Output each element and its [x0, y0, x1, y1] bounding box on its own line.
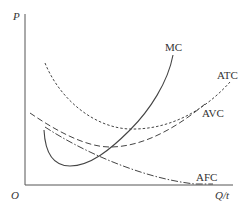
afc-label: AFC — [196, 171, 217, 183]
mc-curve — [44, 55, 173, 166]
afc-curve — [45, 127, 213, 184]
origin-label: O — [11, 189, 19, 201]
atc-label: ATC — [217, 69, 238, 81]
avc-label: AVC — [202, 107, 224, 119]
cost-curves-diagram: P O Q/t MC ATC AVC AFC — [0, 0, 245, 212]
atc-curve — [45, 63, 230, 129]
avc-curve — [30, 104, 205, 147]
mc-label: MC — [165, 41, 182, 53]
x-axis-label: Q/t — [215, 189, 230, 201]
y-axis-label: P — [12, 10, 20, 22]
